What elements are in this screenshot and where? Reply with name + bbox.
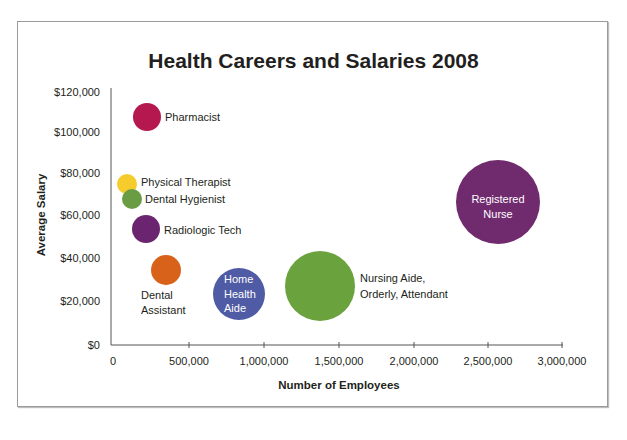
x-axis-title: Number of Employees [278,379,399,391]
label-nursing-aide-line2: Orderly, Attendant [360,288,448,300]
y-tick-0: $0 [88,339,100,351]
x-tick-2000000: 2,000,000 [390,355,439,367]
x-tick-1000000: 1,000,000 [240,355,289,367]
y-axis-title: Average Salary [35,173,47,256]
label-home-health-line2: Health [224,288,256,300]
x-tick-1500000: 1,500,000 [315,355,364,367]
y-tick-40000: $40,000 [60,252,100,264]
label-home-health-line1: Home [224,273,253,285]
x-tick-0: 0 [110,355,116,367]
label-pharmacist: Pharmacist [165,111,220,123]
y-tick-100000: $100,000 [54,126,100,138]
x-tick-3000000: 3,000,000 [538,355,587,367]
bubble-dental-hygienist [122,189,142,209]
bubble-chart: $0 $20,000 $40,000 $60,000 $80,000 $100,… [0,0,627,440]
bubble-radiologic-tech [132,215,160,243]
label-home-health-line3: Aide [224,302,246,314]
label-registered-nurse-line1: Registered [471,193,524,205]
label-dental-assistant-line2: Assistant [141,304,186,316]
bubble-nursing-aide [285,251,355,321]
y-tick-120000: $120,000 [54,86,100,98]
label-registered-nurse-line2: Nurse [483,208,512,220]
label-dental-assistant-line1: Dental [141,289,173,301]
y-tick-80000: $80,000 [60,167,100,179]
y-tick-20000: $20,000 [60,295,100,307]
bubble-dental-assistant [151,255,181,285]
x-tick-500000: 500,000 [169,355,209,367]
y-tick-60000: $60,000 [60,209,100,221]
label-radiologic-tech: Radiologic Tech [164,224,241,236]
x-tick-2500000: 2,500,000 [464,355,513,367]
label-physical-therapist: Physical Therapist [141,176,231,188]
bubble-pharmacist [133,103,161,131]
label-nursing-aide-line1: Nursing Aide, [360,272,425,284]
label-dental-hygienist: Dental Hygienist [145,193,225,205]
